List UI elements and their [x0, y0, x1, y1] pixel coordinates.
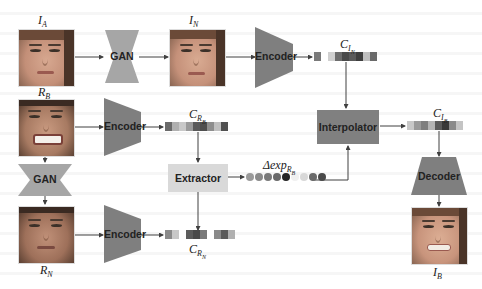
- interpolator-box: Interpolator: [317, 110, 379, 144]
- face-image-IN: [169, 29, 226, 87]
- label-delta-exp: ΔexpRB: [263, 159, 295, 176]
- label-CIN: CIN: [340, 38, 355, 55]
- label-IB: IB: [433, 266, 442, 281]
- label-IA: IA: [38, 14, 47, 29]
- label-CIB: CIB: [433, 107, 447, 124]
- code-cell: [165, 230, 172, 239]
- code-cell: [449, 121, 456, 130]
- delta-exp-dot: [318, 173, 326, 181]
- code-cell: [165, 122, 172, 131]
- delta-exp-dot: [255, 173, 263, 181]
- label-IN: IN: [189, 14, 198, 29]
- label-CRB: CRB: [189, 108, 206, 125]
- delta-exp-dot: [309, 173, 317, 181]
- code-cell: [221, 230, 228, 239]
- code-cell: [179, 230, 186, 239]
- face-image-RN: [18, 206, 75, 264]
- code-cell: [207, 230, 214, 239]
- code-cell: [172, 122, 179, 131]
- code-cell: [456, 121, 463, 130]
- code-cell: [193, 230, 200, 239]
- code-cell: [328, 52, 335, 61]
- code-cell: [214, 122, 221, 131]
- face-image-IA: [18, 29, 75, 87]
- code-cell: [214, 230, 221, 239]
- gan-top-label: GAN: [105, 50, 139, 62]
- code-cell: [221, 122, 228, 131]
- code-cell: [179, 122, 186, 131]
- code-cell: [407, 121, 414, 130]
- code-cell: [207, 122, 214, 131]
- gan-left-label: GAN: [18, 173, 72, 185]
- code-cell: [200, 230, 207, 239]
- delta-exp-dot: [300, 173, 308, 181]
- label-CRN: CRN: [189, 243, 206, 260]
- delta-exp-dot: [246, 173, 254, 181]
- code-cell: [356, 52, 363, 61]
- code-cell: [172, 230, 179, 239]
- code-cell: [414, 121, 421, 130]
- code-cell: [363, 52, 370, 61]
- code-cell: [186, 230, 193, 239]
- label-RB: RB: [38, 86, 50, 101]
- face-image-IB: [411, 207, 468, 265]
- code-cell: [370, 52, 377, 61]
- label-RN: RN: [40, 264, 53, 279]
- code-cell: [314, 52, 321, 61]
- encoder-top-label: Encoder: [255, 50, 293, 62]
- code-cell: [228, 230, 235, 239]
- face-image-RB: [18, 99, 75, 157]
- encoder-mid-label: Encoder: [104, 120, 142, 132]
- encoder-bottom-label: Encoder: [104, 228, 142, 240]
- code-vector-CRN: [165, 230, 235, 239]
- decoder-label: Decoder: [411, 170, 467, 182]
- code-cell: [421, 121, 428, 130]
- code-cell: [321, 52, 328, 61]
- extractor-box: Extractor: [168, 164, 228, 192]
